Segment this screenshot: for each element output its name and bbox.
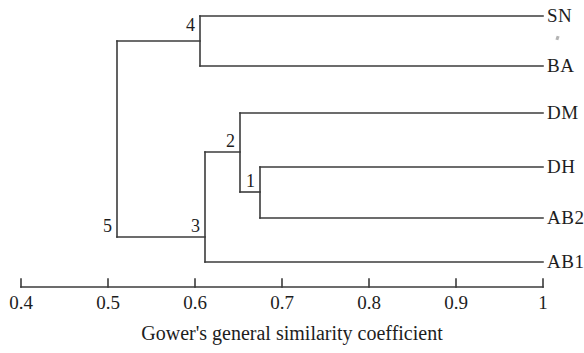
node-label-2: 2	[226, 132, 235, 150]
leaf-label-sn: SN	[547, 6, 572, 25]
node-label-1: 1	[246, 172, 255, 190]
x-tick-label-2: 0.6	[183, 293, 207, 312]
node-label-3: 3	[191, 217, 200, 235]
x-tick-label-6: 1	[538, 293, 548, 312]
node-label-5: 5	[103, 217, 112, 235]
leaf-label-dh: DH	[547, 157, 575, 176]
leaf-label-ab1: AB1	[547, 252, 584, 271]
x-tick-label-5: 0.9	[444, 293, 468, 312]
x-tick-label-0: 0.4	[9, 293, 33, 312]
leaf-label-ba: BA	[547, 56, 574, 75]
leaf-label-dm: DM	[547, 103, 579, 122]
dendrogram-branches	[117, 16, 543, 262]
leaf-label-ab2: AB2	[547, 208, 584, 227]
dendrogram-figure: SN BA DM DH AB2 AB1 1 2 3 4 5 0.4 0.5 0.…	[0, 0, 584, 353]
x-axis	[21, 279, 543, 287]
node-label-4: 4	[186, 16, 195, 34]
x-axis-title: Gower's general similarity coefficient	[0, 322, 584, 344]
x-tick-label-3: 0.7	[270, 293, 294, 312]
x-tick-label-1: 0.5	[96, 293, 120, 312]
x-tick-label-4: 0.8	[357, 293, 381, 312]
